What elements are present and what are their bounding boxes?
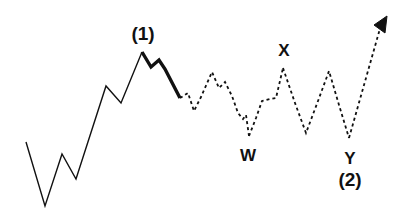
label-wave-x: X — [278, 41, 290, 60]
label-wave-w: W — [240, 146, 257, 165]
label-wave-two: (2) — [338, 169, 361, 190]
label-wave-y: Y — [344, 149, 356, 168]
label-wave-one: (1) — [131, 23, 154, 44]
elliott-wave-diagram: (1) W X Y (2) — [0, 0, 410, 224]
bold-correction-path — [142, 52, 180, 98]
projection-arrow-shaft — [349, 25, 381, 138]
corrective-wave-y-path — [283, 68, 349, 138]
wave-chart-svg: (1) W X Y (2) — [0, 0, 410, 224]
corrective-wave-x-path — [249, 68, 283, 136]
corrective-wave-w-path — [180, 72, 249, 136]
impulse-rise-path — [26, 52, 142, 206]
projection-arrow-head-icon — [374, 16, 387, 33]
